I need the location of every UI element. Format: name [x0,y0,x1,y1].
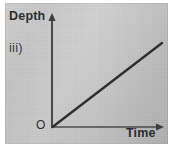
up-arrow-icon [48,13,55,21]
origin-label: O [36,119,46,131]
figure-panel [5,3,168,144]
y-axis-label: Depth [9,10,45,23]
right-arrow-icon [156,124,164,131]
data-series-line [53,43,163,127]
graph-plot-area [5,3,168,144]
part-label: iii) [9,41,23,54]
x-axis-label: Time [126,127,156,140]
figure-screenshot: Depth iii) Time O [0,0,172,154]
